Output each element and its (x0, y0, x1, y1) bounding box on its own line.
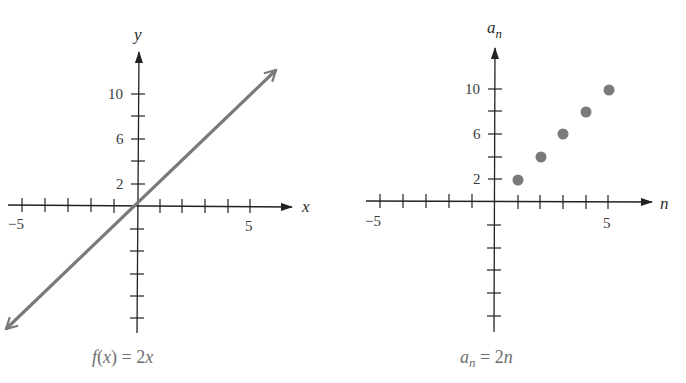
left-y-axis-label: y (132, 25, 142, 44)
right-chart: −5 5 10 6 2 n an an = 2n (365, 18, 669, 370)
right-x-axis-label: n (660, 194, 669, 213)
point-n3 (558, 129, 569, 140)
sequence-points (513, 85, 615, 186)
right-y-tick-6: 6 (473, 126, 481, 142)
right-y-axis (494, 48, 495, 332)
left-caption: f(x) = 2x (92, 347, 153, 368)
left-x-axis-label: x (301, 197, 310, 216)
point-n5 (604, 85, 615, 96)
left-x-tick-5: 5 (245, 218, 253, 234)
right-x-axis (366, 201, 652, 202)
right-x-tick-neg5: −5 (365, 213, 381, 229)
right-y-tick-2: 2 (473, 171, 481, 187)
right-x-tick-5: 5 (603, 215, 611, 231)
right-y-axis-label: an (487, 18, 502, 41)
right-caption: an = 2n (460, 347, 513, 370)
right-y-tick-10: 10 (465, 81, 480, 97)
point-n2 (536, 152, 547, 163)
figure: −5 5 10 6 2 x y f(x) = 2x (0, 0, 686, 383)
left-x-tick-neg5: −5 (8, 216, 24, 232)
function-line (6, 70, 276, 329)
point-n4 (581, 107, 592, 118)
left-chart: −5 5 10 6 2 x y f(x) = 2x (6, 25, 310, 368)
left-y-tick-6: 6 (116, 131, 124, 147)
point-n1 (513, 175, 524, 186)
left-y-tick-10: 10 (108, 86, 123, 102)
left-y-tick-2: 2 (116, 176, 124, 192)
